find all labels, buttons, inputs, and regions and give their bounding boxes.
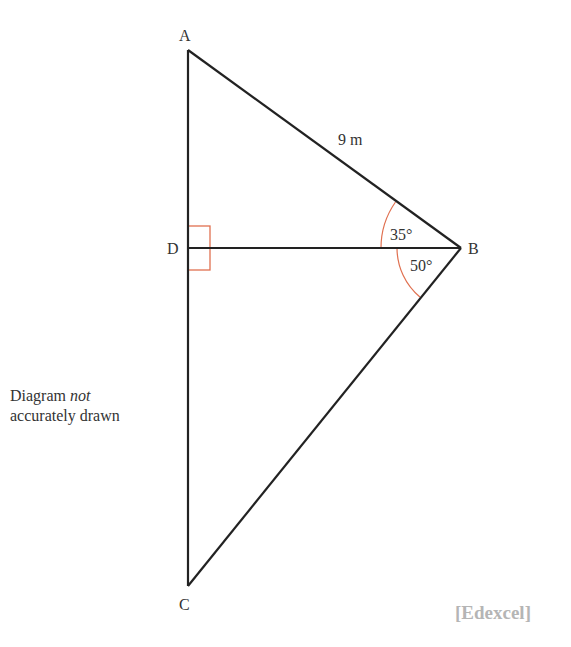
source-label: [Edexcel] bbox=[455, 602, 531, 624]
vertex-label-a: A bbox=[179, 28, 191, 44]
edge-ab bbox=[188, 50, 461, 248]
angle-label-35: 35° bbox=[390, 227, 412, 243]
vertex-label-d: D bbox=[167, 241, 179, 257]
note-prefix: Diagram bbox=[10, 387, 70, 404]
note-line2: accurately drawn bbox=[10, 407, 120, 424]
triangle-diagram bbox=[0, 0, 571, 647]
diagram-note: Diagram not accurately drawn bbox=[10, 386, 120, 426]
vertex-label-c: C bbox=[179, 597, 190, 613]
side-length-label: 9 m bbox=[338, 132, 362, 148]
angle-label-50: 50° bbox=[410, 258, 432, 274]
edge-bc bbox=[188, 248, 461, 586]
vertex-label-b: B bbox=[468, 241, 479, 257]
note-italic: not bbox=[70, 387, 90, 404]
